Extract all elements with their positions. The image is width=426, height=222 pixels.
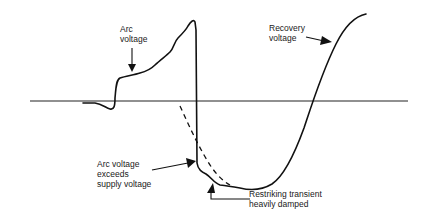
label-recovery-voltage: Recovery voltage	[269, 23, 305, 43]
waveform-diagram	[0, 0, 426, 222]
label-restriking: Restriking transient heavily damped	[249, 189, 322, 209]
arrow-recovery-voltage	[306, 36, 332, 45]
arrow-arc-voltage	[128, 48, 136, 72]
label-arc-voltage: Arc voltage	[120, 24, 147, 44]
label-arc-exceeds: Arc voltage exceeds supply voltage	[97, 159, 151, 189]
arrow-arc-exceeds	[152, 158, 196, 170]
